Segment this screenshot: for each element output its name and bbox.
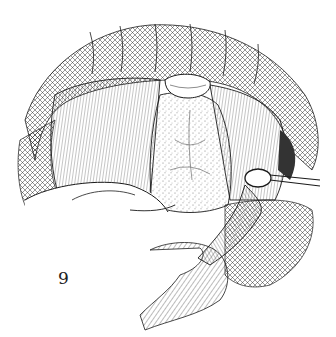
surgical-illustration: 9 (0, 0, 336, 337)
figure-label: 9 (58, 268, 69, 288)
illustration-drawing (0, 0, 336, 337)
